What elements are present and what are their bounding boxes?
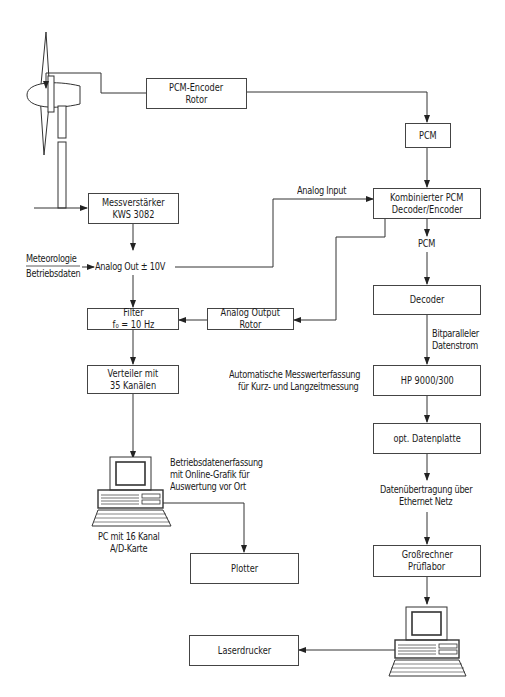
betriebsdaten-label: Betriebsdaten	[26, 268, 81, 280]
ad-karte-label: A/D-Karte	[110, 543, 147, 555]
verteiler-box: Verteiler mit 35 Kanälen	[87, 365, 179, 394]
analog-out-label: Analog Out ± 10V	[95, 261, 165, 273]
analog-output-rotor-box: Analog Output Rotor	[207, 308, 294, 330]
box-label: HP 9000/300	[400, 375, 453, 387]
meteorologie-label: Meteorologie	[26, 253, 76, 265]
pc-workstation-icon	[389, 607, 466, 676]
messverstaerker-box: Messverstärker KWS 3082	[88, 193, 179, 224]
hp-9000-box: HP 9000/300	[373, 365, 481, 396]
box-label: PCM	[419, 130, 437, 142]
pcm-mid-label: PCM	[418, 238, 435, 250]
laserdrucker-box: Laserdrucker	[189, 635, 299, 666]
betriebsdatenerfassung-label: Betriebsdatenerfassung	[170, 457, 263, 469]
box-label: f₀ = 10 Hz	[112, 319, 154, 331]
box-label: Verteiler mit	[108, 368, 159, 380]
online-grafik-label: mit Online-Grafik für	[170, 469, 249, 481]
datenuebertragung-label: Datenübertragung über	[380, 484, 472, 496]
pc-label: PC mit 16 Kanal	[98, 531, 159, 543]
box-label: PCM-Encoder	[169, 82, 223, 94]
box-label: KWS 3082	[113, 209, 155, 221]
box-label: Prüflabor	[408, 561, 445, 573]
analog-input-label: Analog Input	[297, 185, 346, 197]
ethernet-label: Ethernet Netz	[399, 496, 452, 508]
box-label: Messverstärker	[102, 197, 165, 209]
wind-turbine-icon	[27, 32, 80, 208]
plotter-box: Plotter	[190, 553, 299, 584]
box-label: Plotter	[231, 563, 258, 575]
grossrechner-box: Großrechner Prüflabor	[373, 545, 481, 577]
box-label: Großrechner	[401, 549, 452, 561]
kurz-langzeit-label: für Kurz- und Langzeitmessung	[238, 381, 359, 393]
diagram-wires	[0, 0, 505, 697]
box-label: Laserdrucker	[217, 645, 270, 657]
box-label: Decoder	[410, 294, 445, 306]
box-label: Decoder/Encoder	[392, 204, 463, 216]
box-label: Analog Output	[221, 307, 280, 319]
filter-box: Filter f₀ = 10 Hz	[87, 308, 179, 330]
box-label: Filter	[123, 307, 143, 319]
box-label: opt. Datenplatte	[393, 433, 460, 445]
datenstrom-label: Datenstrom	[432, 340, 478, 352]
box-label: Rotor	[186, 94, 208, 106]
automatische-label: Automatische Messwerterfassung	[229, 369, 360, 381]
bitparalleler-label: Bitparalleler	[432, 328, 479, 340]
box-label: Rotor	[240, 319, 262, 331]
pcm-box: PCM	[405, 123, 451, 148]
auswertung-label: Auswertung vor Ort	[170, 481, 246, 493]
decoder-box: Decoder	[373, 285, 481, 315]
kombinierter-pcm-box: Kombinierter PCM Decoder/Encoder	[373, 188, 481, 219]
datenplatte-box: opt. Datenplatte	[373, 423, 481, 454]
box-label: Kombinierter PCM	[390, 192, 463, 204]
pcm-encoder-rotor-box: PCM-Encoder Rotor	[146, 78, 247, 109]
box-label: 35 Kanälen	[110, 380, 156, 392]
pc-workstation-icon	[92, 457, 171, 526]
